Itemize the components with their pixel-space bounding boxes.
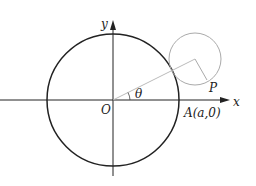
y-axis-label: y (100, 17, 108, 31)
angle-arc (128, 93, 130, 101)
diagram-canvas: y x O θ P A(a,0) (0, 0, 256, 186)
point-a-label: A(a,0) (183, 106, 221, 120)
point-p-label: P (208, 81, 218, 95)
origin-label: O (101, 103, 111, 117)
x-axis-arrow-icon (220, 97, 230, 103)
y-axis-arrow-icon (110, 20, 116, 30)
angle-label: θ (135, 87, 143, 101)
x-axis-label: x (233, 95, 240, 109)
center-to-p-line (195, 59, 207, 80)
radius-line (113, 59, 195, 100)
